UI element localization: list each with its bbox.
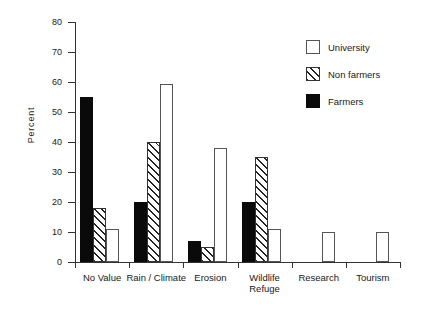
y-axis-tick — [68, 142, 75, 143]
bar-university-no-value — [106, 229, 119, 262]
bar-university-rain-climate — [160, 84, 173, 263]
y-axis-tick — [68, 232, 75, 233]
bar-farmers-rain-climate — [134, 202, 147, 262]
y-axis-tick-label: 20 — [40, 198, 62, 207]
bar-university-wildlife-refuge — [268, 229, 281, 262]
y-axis-tick — [68, 112, 75, 113]
bar-university-research — [322, 232, 335, 262]
legend-swatch-icon — [306, 94, 320, 108]
bar-non-farmers-wildlife-refuge — [255, 157, 268, 262]
x-axis-tick — [400, 262, 401, 268]
chart-legend: UniversityNon farmersFarmers — [306, 40, 380, 121]
y-axis-tick-label: 80 — [40, 18, 62, 27]
legend-item-label: University — [328, 42, 370, 53]
y-axis-tick-label: 30 — [40, 168, 62, 177]
x-axis-tick — [183, 262, 184, 268]
bar-non-farmers-no-value — [93, 208, 106, 262]
legend-item-label: Farmers — [328, 96, 363, 107]
y-axis-tick — [68, 52, 75, 53]
y-axis-tick — [68, 202, 75, 203]
x-axis-tick — [346, 262, 347, 268]
bar-farmers-erosion — [188, 241, 201, 262]
legend-swatch-icon — [306, 40, 320, 54]
bar-chart: Percent 01020304050607080 No ValueRain /… — [0, 0, 424, 323]
y-axis-tick — [68, 262, 75, 263]
y-axis-tick-label: 70 — [40, 48, 62, 57]
bar-farmers-no-value — [80, 97, 93, 262]
y-axis-tick — [68, 172, 75, 173]
y-axis-tick-label: 60 — [40, 78, 62, 87]
legend-item-non-farmers: Non farmers — [306, 67, 380, 81]
y-axis-tick-label: 0 — [40, 258, 62, 267]
x-axis-category-label: Tourism — [334, 272, 412, 283]
y-axis-tick-label: 50 — [40, 108, 62, 117]
legend-swatch-icon — [306, 67, 320, 81]
x-axis-tick — [238, 262, 239, 268]
x-axis-tick — [292, 262, 293, 268]
legend-item-label: Non farmers — [328, 69, 380, 80]
bar-non-farmers-erosion — [201, 247, 214, 262]
bar-non-farmers-rain-climate — [147, 142, 160, 262]
y-axis-tick-label: 40 — [40, 138, 62, 147]
x-axis-tick — [75, 262, 76, 268]
legend-item-university: University — [306, 40, 380, 54]
bar-university-erosion — [214, 148, 227, 262]
legend-item-farmers: Farmers — [306, 94, 380, 108]
y-axis-tick — [68, 22, 75, 23]
y-axis-tick-label: 10 — [40, 228, 62, 237]
y-axis-tick — [68, 82, 75, 83]
y-axis-title: Percent — [26, 85, 36, 165]
bar-farmers-wildlife-refuge — [242, 202, 255, 262]
x-axis-tick — [129, 262, 130, 268]
bar-university-tourism — [376, 232, 389, 262]
